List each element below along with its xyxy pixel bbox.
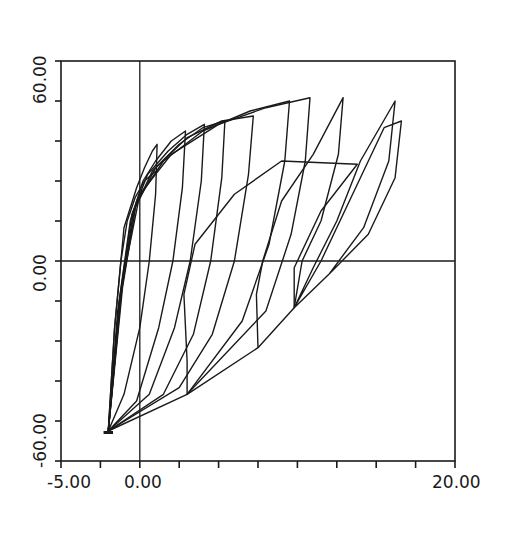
hysteresis-loop-cycle-7 [108,98,310,431]
hysteresis-loop-cycle-10 [294,101,401,308]
negative-peak-cluster [104,431,113,434]
x-tick-label-zero: 0.00 [124,472,162,492]
y-tick-label-top: 60.00 [30,55,50,104]
y-tick-label-zero: 0.00 [30,254,50,292]
y-tick-label-bottom: -60.00 [30,413,50,468]
x-tick-label-left: -5.00 [47,472,91,492]
hysteresis-curves [104,98,402,434]
hysteresis-loop-cycle-9 [256,98,343,348]
hysteresis-loop-cycle-5 [108,116,253,431]
hysteresis-loop-cycle-1 [108,144,157,431]
hysteresis-loop-cycle-8 [184,161,357,394]
hysteresis-loop-skeleton [108,171,155,431]
hysteresis-chart [0,0,515,540]
x-tick-label-right: 20.00 [432,472,481,492]
chart-axes [55,61,455,468]
